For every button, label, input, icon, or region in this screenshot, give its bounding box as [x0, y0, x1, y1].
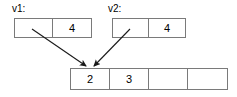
v2-cell-1: 4 — [149, 19, 185, 37]
array-box-result: 2 3 — [70, 68, 228, 90]
v1-cell-0 — [15, 19, 53, 37]
vector-label-v2: v2: — [108, 4, 121, 14]
result-cell-3 — [188, 69, 227, 89]
array-box-v1: 4 — [14, 18, 92, 38]
result-cell-1: 3 — [110, 69, 149, 89]
result-cell-2 — [149, 69, 188, 89]
vector-label-v1: v1: — [12, 4, 25, 14]
array-box-v2: 4 — [112, 18, 186, 38]
result-cell-0: 2 — [71, 69, 110, 89]
v2-cell-0 — [113, 19, 149, 37]
v1-cell-1: 4 — [53, 19, 91, 37]
array-pointer-diagram: v1: v2: 4 4 2 3 — [0, 0, 237, 97]
